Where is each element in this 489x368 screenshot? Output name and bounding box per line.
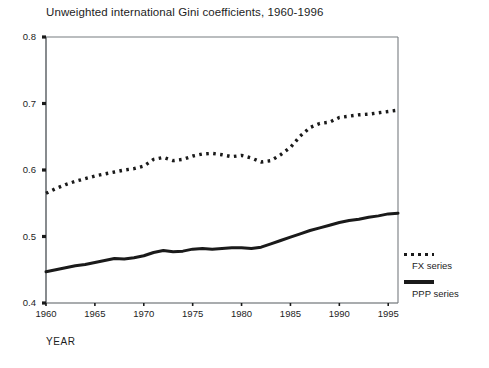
chart-legend: FX series PPP series — [402, 250, 488, 306]
y-axis-tick-label: 0.6 — [10, 164, 36, 175]
y-axis-tick-label: 0.7 — [10, 98, 36, 109]
series-line-fx-series — [46, 110, 398, 193]
y-axis-tick-label: 0.4 — [10, 297, 36, 308]
x-axis-tick-label: 1970 — [124, 308, 164, 319]
legend-label-fx: FX series — [402, 260, 488, 271]
x-axis-tick-label: 1990 — [319, 308, 359, 319]
y-axis-tick-label: 0.5 — [10, 231, 36, 242]
x-axis-tick-label: 1975 — [173, 308, 213, 319]
y-axis-tick-label: 0.8 — [10, 31, 36, 42]
legend-entry-ppp: PPP series — [402, 278, 488, 299]
x-axis-tick-label: 1985 — [270, 308, 310, 319]
axis-ticks — [42, 37, 388, 306]
legend-swatch-solid-icon — [402, 278, 438, 287]
x-axis-title: YEAR — [46, 336, 76, 347]
chart-figure: Unweighted international Gini coefficien… — [0, 0, 489, 368]
legend-swatch-dotted-icon — [402, 250, 438, 259]
legend-label-ppp: PPP series — [402, 288, 488, 299]
x-axis-tick-label: 1980 — [222, 308, 262, 319]
x-axis-tick-label: 1965 — [75, 308, 115, 319]
series-line-ppp-series — [46, 213, 398, 272]
x-axis-tick-label: 1960 — [26, 308, 66, 319]
x-axis-tick-label: 1995 — [368, 308, 408, 319]
legend-entry-fx: FX series — [402, 250, 488, 271]
data-series — [46, 110, 398, 272]
